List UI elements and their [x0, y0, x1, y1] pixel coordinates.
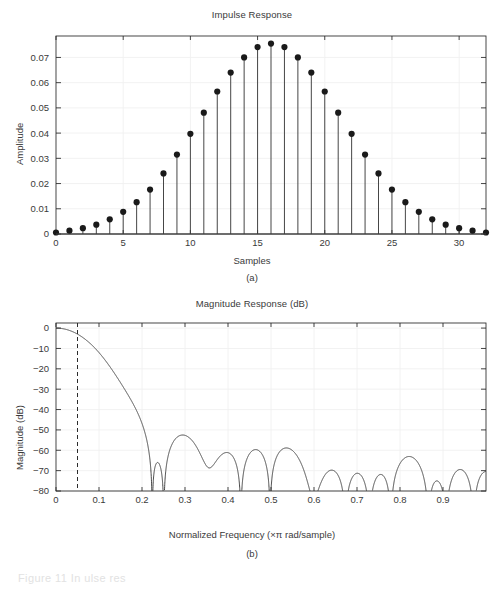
x-tick-label: 0.2	[135, 494, 148, 505]
x-tick-label: 0.1	[92, 494, 105, 505]
stem-marker	[469, 228, 475, 234]
stem-marker	[349, 131, 355, 137]
stem-marker	[120, 209, 126, 215]
stem-marker	[456, 225, 462, 231]
x-tick-label: 10	[185, 237, 196, 248]
x-tick-label: 0.3	[178, 494, 191, 505]
x-tick-label: 0	[53, 237, 58, 248]
stem-marker	[254, 44, 260, 50]
stem-marker	[416, 209, 422, 215]
grid-lines	[56, 323, 486, 491]
stem-marker	[335, 110, 341, 116]
x-tick-label: 0.8	[393, 494, 406, 505]
stem-marker	[268, 40, 274, 46]
y-tick-label: −50	[33, 424, 49, 435]
x-axis-label-samples: Samples	[0, 255, 504, 266]
x-tick-label: 0.4	[221, 494, 234, 505]
x-tick-label: 0	[53, 494, 58, 505]
x-tick-label: 30	[454, 237, 465, 248]
stem-marker	[107, 216, 113, 222]
x-tick-label: 0.9	[436, 494, 449, 505]
y-tick-label: 0.04	[31, 128, 50, 139]
stem-marker	[174, 151, 180, 157]
stem-marker	[53, 229, 59, 235]
y-tick-label: 0.03	[31, 153, 50, 164]
stem-marker	[134, 199, 140, 205]
y-tick-label: −20	[33, 363, 49, 374]
stem-marker	[80, 225, 86, 231]
y-tick-label: −10	[33, 343, 49, 354]
stem-marker	[362, 151, 368, 157]
figure-container: Impulse Response Amplitude 0510152025300…	[0, 0, 504, 590]
stem-marker	[93, 222, 99, 228]
axis-ticks: 00.10.20.30.40.50.60.70.80.90−10−20−30−4…	[33, 322, 486, 505]
stem-marker	[322, 88, 328, 94]
x-tick-label: 15	[252, 237, 263, 248]
stem-marker	[147, 187, 153, 193]
y-tick-label: −40	[33, 404, 49, 415]
y-tick-label: 0.02	[31, 178, 50, 189]
stem-marker	[201, 110, 207, 116]
y-tick-label: −70	[33, 465, 49, 476]
y-tick-label: −30	[33, 384, 49, 395]
stem-marker	[66, 228, 72, 234]
x-tick-label: 0.6	[307, 494, 320, 505]
stem-marker	[389, 187, 395, 193]
stem-marker	[483, 229, 489, 235]
stem-marker	[281, 44, 287, 50]
y-tick-label: 0.01	[31, 203, 50, 214]
y-tick-label: 0	[44, 228, 49, 239]
stem-marker	[187, 131, 193, 137]
x-tick-label: 20	[319, 237, 330, 248]
stem-marker	[375, 170, 381, 176]
stem-marker	[160, 170, 166, 176]
stem-series	[53, 40, 489, 235]
stem-marker	[402, 199, 408, 205]
page-footer-ghost-text: Figure 11 In ulse res	[18, 572, 126, 584]
panel-magnitude-response: Magnitude Response (dB) Magnitude (dB) 0…	[0, 290, 504, 562]
x-axis-label-normalized-frequency: Normalized Frequency (×π rad/sample)	[0, 529, 504, 540]
y-tick-label: 0.07	[31, 52, 50, 63]
magnitude-response-plot: 00.10.20.30.40.50.60.70.80.90−10−20−30−4…	[0, 309, 504, 524]
axis-ticks: 05101520253000.010.020.030.040.050.060.0…	[31, 36, 487, 248]
stem-marker	[429, 216, 435, 222]
stem-marker	[214, 88, 220, 94]
panel-impulse-response: Impulse Response Amplitude 0510152025300…	[0, 0, 504, 290]
stem-marker	[241, 54, 247, 60]
stem-marker	[295, 54, 301, 60]
stem-marker	[228, 69, 234, 75]
x-tick-label: 25	[387, 237, 398, 248]
impulse-response-plot: 05101520253000.010.020.030.040.050.060.0…	[0, 20, 504, 270]
x-tick-label: 5	[121, 237, 126, 248]
subcaption-b: (b)	[0, 548, 504, 559]
subcaption-a: (a)	[0, 272, 504, 283]
y-tick-label: 0	[44, 322, 49, 333]
chart-title-impulse-response: Impulse Response	[0, 9, 504, 20]
stem-marker	[443, 222, 449, 228]
y-tick-label: −60	[33, 445, 49, 456]
y-tick-label: −80	[33, 485, 49, 496]
y-tick-label: 0.05	[31, 102, 50, 113]
stem-marker	[308, 69, 314, 75]
y-tick-label: 0.06	[31, 77, 50, 88]
chart-title-magnitude-response: Magnitude Response (dB)	[0, 298, 504, 309]
x-tick-label: 0.7	[350, 494, 363, 505]
x-tick-label: 0.5	[264, 494, 277, 505]
